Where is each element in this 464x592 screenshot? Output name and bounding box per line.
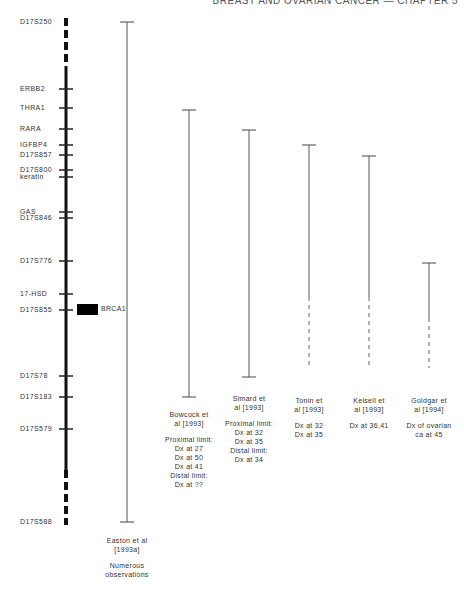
marker-label: D17S588 — [20, 518, 52, 526]
study-citation: Easton et al [1993a] — [87, 536, 167, 554]
study-note: Numerous observations — [87, 561, 167, 579]
gene-label: BRCA1 — [101, 305, 126, 312]
marker-label: D17S776 — [20, 257, 52, 265]
marker-label: D17S579 — [20, 425, 52, 433]
marker-label: THRA1 — [20, 104, 45, 112]
marker-label: D17S855 — [20, 306, 52, 314]
marker-label: D17S183 — [20, 393, 52, 401]
linkage-diagram — [0, 0, 464, 592]
marker-label: keratin — [20, 173, 44, 181]
marker-label: IGFBP4 — [20, 141, 47, 149]
marker-label: D17S250 — [20, 18, 52, 26]
marker-label: ERBB2 — [20, 85, 45, 93]
brca1-region-box — [77, 304, 98, 315]
study-note: Dx of ovarian ca at 45 — [389, 421, 464, 439]
marker-label: D17S857 — [20, 151, 52, 159]
marker-label: 17-HSD — [20, 290, 47, 298]
study-citation: Goldgar et al [1994] — [389, 396, 464, 414]
marker-label: RARA — [20, 125, 41, 133]
marker-label: D17S78 — [20, 372, 48, 380]
marker-label: D17S846 — [20, 214, 52, 222]
